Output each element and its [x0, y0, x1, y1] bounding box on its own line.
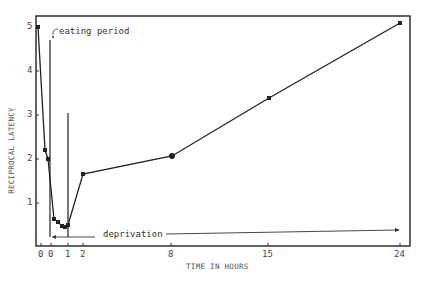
x-tick-label: 1: [65, 249, 70, 259]
y-tick-label: 4: [27, 65, 32, 75]
x-tick-label: 15: [262, 249, 273, 259]
x-axis-label: TIME IN HOURS: [186, 262, 249, 271]
y-tick-label: 2: [27, 153, 32, 163]
eating-pointer-icon: [53, 29, 58, 35]
x-tick-label: 2: [80, 249, 85, 259]
x-tick-label: 8: [168, 249, 173, 259]
x-tick-label: 0: [48, 249, 53, 259]
y-tick-label: 1: [27, 197, 32, 207]
data-markers: [36, 21, 402, 229]
x-tick-label: 24: [394, 249, 405, 259]
deprivation-annotation: deprivation: [103, 229, 163, 239]
data-series-line: [38, 23, 400, 227]
y-axis-label: RECIPROCAL LATENCY: [7, 96, 16, 206]
eating-period-annotation: eating period: [59, 26, 129, 36]
y-tick-label: 3: [27, 109, 32, 119]
x-tick-label: 0: [38, 249, 43, 259]
y-tick-label: 5: [27, 21, 32, 31]
plot-frame: [36, 16, 410, 246]
deprivation-arrow-right: [166, 230, 398, 234]
chart: 5 4 3 2 1 0 0 1 2 8 15 24 eating period …: [0, 0, 424, 281]
plot-area: [0, 0, 424, 281]
